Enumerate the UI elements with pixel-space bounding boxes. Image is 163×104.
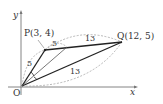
y-axis-arrow-icon bbox=[20, 10, 23, 14]
point-p bbox=[44, 49, 46, 51]
origin-label: O bbox=[13, 88, 20, 98]
length-p-bisector-label: 5 bbox=[52, 39, 57, 48]
angle-mark-1 bbox=[31, 72, 34, 76]
length-pq-label: 13 bbox=[85, 34, 95, 43]
y-axis-label: y bbox=[12, 10, 19, 20]
length-op-label: 5 bbox=[27, 59, 32, 68]
x-axis-label: x bbox=[130, 87, 135, 97]
length-oq-label: 13 bbox=[70, 67, 80, 76]
point-p-label: P(3, 4) bbox=[24, 28, 54, 38]
point-q-label: Q(12, 5) bbox=[117, 31, 154, 41]
p-label-leader bbox=[38, 40, 44, 48]
geometry-diagram: y x O P(3, 4) Q(12, 5) 5 5 13 13 bbox=[0, 0, 163, 104]
